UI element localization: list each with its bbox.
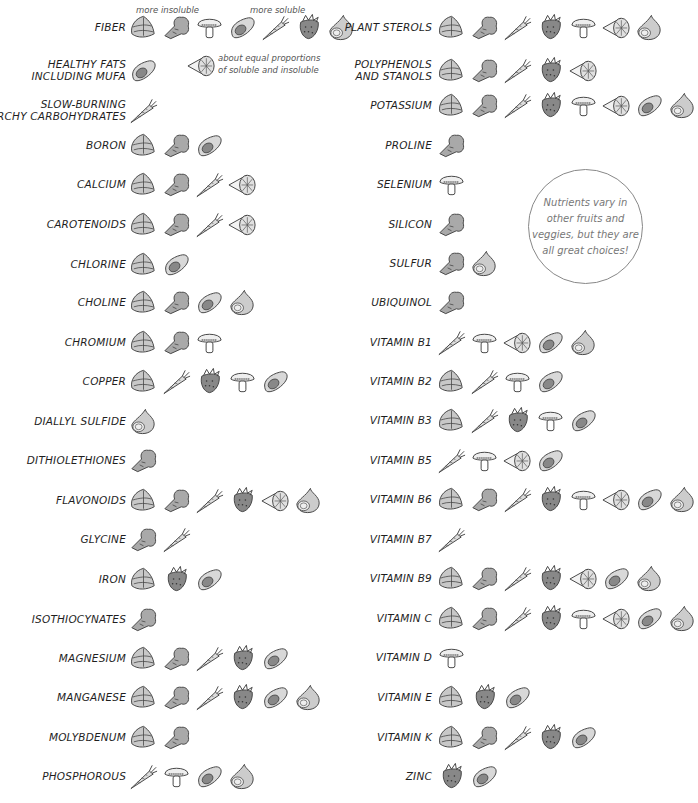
- nutrient-label: VITAMIN B9: [370, 572, 432, 584]
- nutrient-label: GLYCINE: [80, 533, 126, 545]
- nutrient-food-icons: [436, 761, 500, 791]
- broccoli-icon: [161, 682, 192, 712]
- nutrient-label-line: SLOW-BURNING: [0, 98, 126, 110]
- note-bubble: Nutrients vary in other fruits and veggi…: [528, 169, 643, 284]
- mushroom-icon: [436, 169, 467, 199]
- nutrient-label-line: MOLYBDENUM: [49, 731, 126, 743]
- nutrient-label-line: DITHIOLETHIONES: [27, 454, 126, 466]
- nutrient-label-line: VITAMIN E: [377, 691, 432, 703]
- nutrient-label-line: PHOSPHOROUS: [42, 770, 126, 782]
- leafy-greens-icon: [128, 722, 159, 752]
- nutrient-label-line: CHOLINE: [78, 296, 126, 308]
- broccoli-icon: [161, 130, 192, 160]
- nutrient-label-line: VITAMIN B2: [370, 375, 432, 387]
- nutrient-label: PROLINE: [385, 139, 432, 151]
- leafy-greens-icon: [128, 287, 159, 317]
- onion-icon: [634, 563, 665, 593]
- nutrient-food-icons: [128, 12, 357, 42]
- broccoli-icon: [469, 55, 500, 85]
- mushroom-icon: [194, 12, 225, 42]
- citrus-icon: [601, 603, 632, 633]
- nutrient-label-line: UBIQUINOL: [371, 296, 432, 308]
- mushroom-icon: [568, 90, 599, 120]
- broccoli-icon: [469, 603, 500, 633]
- mushroom-icon: [469, 445, 500, 475]
- nutrient-label-line: VITAMIN B6: [370, 493, 432, 505]
- nutrient-label-line: PROLINE: [385, 139, 432, 151]
- avocado-icon: [535, 366, 566, 396]
- broccoli-icon: [436, 248, 467, 278]
- nutrient-label: VITAMIN B7: [370, 533, 432, 545]
- avocado-icon: [634, 484, 665, 514]
- nutrient-label-line: ISOTHIOCYNATES: [32, 613, 126, 625]
- nutrient-label: SILICON: [388, 218, 432, 230]
- nutrient-food-icons: [436, 603, 698, 633]
- mushroom-icon: [535, 405, 566, 435]
- leafy-greens-icon: [436, 90, 467, 120]
- broccoli-icon: [161, 327, 192, 357]
- nutrient-label: MOLYBDENUM: [49, 731, 126, 743]
- avocado-icon: [568, 405, 599, 435]
- nutrient-food-icons: [128, 524, 192, 554]
- nutrient-label-line: POLYPHENOLS: [354, 58, 432, 70]
- strawberry-icon: [227, 643, 258, 673]
- nutrient-food-icons: [128, 761, 258, 791]
- onion-icon: [293, 485, 324, 515]
- nutrient-label: CALCIUM: [77, 178, 126, 190]
- nutrient-label-line: SELENIUM: [377, 178, 432, 190]
- strawberry-icon: [227, 682, 258, 712]
- leafy-greens-icon: [436, 682, 467, 712]
- strawberry-icon: [469, 682, 500, 712]
- strawberry-icon: [293, 12, 324, 42]
- nutrient-label-line: ZINC: [406, 770, 432, 782]
- strawberry-icon: [535, 12, 566, 42]
- broccoli-icon: [128, 604, 159, 634]
- avocado-icon: [194, 130, 225, 160]
- broccoli-icon: [128, 524, 159, 554]
- nutrient-food-icons: [128, 55, 159, 85]
- nutrient-label-line: CHLORINE: [71, 258, 127, 270]
- nutrient-food-icons: [436, 563, 665, 593]
- avocado-icon: [260, 366, 291, 396]
- onion-icon: [227, 761, 258, 791]
- nutrient-food-icons: [128, 722, 192, 752]
- leafy-greens-icon: [128, 564, 159, 594]
- citrus-icon: [568, 55, 599, 85]
- strawberry-icon: [194, 366, 225, 396]
- nutrient-label: ZINC: [406, 770, 432, 782]
- broccoli-icon: [436, 209, 467, 239]
- nutrient-food-icons: [128, 209, 258, 239]
- mushroom-icon: [568, 603, 599, 633]
- leafy-greens-icon: [436, 722, 467, 752]
- strawberry-icon: [535, 603, 566, 633]
- nutrient-food-icons: [436, 524, 467, 554]
- broccoli-icon: [436, 287, 467, 317]
- avocado-icon: [568, 722, 599, 752]
- broccoli-icon: [161, 287, 192, 317]
- nutrient-label: HEALTHY FATSINCLUDING MUFA: [32, 58, 126, 82]
- broccoli-icon: [469, 12, 500, 42]
- strawberry-icon: [535, 722, 566, 752]
- avocado-icon: [535, 445, 566, 475]
- strawberry-icon: [535, 484, 566, 514]
- carrot-icon: [128, 95, 159, 125]
- onion-icon: [293, 682, 324, 712]
- nutrient-label-line: POTASSIUM: [370, 99, 432, 111]
- nutrient-food-icons: [436, 682, 533, 712]
- onion-icon: [568, 327, 599, 357]
- nutrient-label: MAGNESIUM: [59, 652, 126, 664]
- broccoli-icon: [161, 209, 192, 239]
- mushroom-icon: [436, 642, 467, 672]
- nutrient-label-line: BORON: [86, 139, 126, 151]
- nutrient-label: CHLORINE: [71, 258, 127, 270]
- nutrient-food-icons: [436, 12, 665, 42]
- carrot-icon: [436, 524, 467, 554]
- nutrient-label: SLOW-BURNINGSTARCHY CARBOHYDRATES: [0, 98, 126, 122]
- avocado-icon: [227, 12, 258, 42]
- leafy-greens-icon: [436, 484, 467, 514]
- nutrient-food-icons: [436, 90, 698, 120]
- nutrient-food-icons: [436, 722, 599, 752]
- carrot-icon: [502, 55, 533, 85]
- mushroom-icon: [568, 484, 599, 514]
- onion-icon: [667, 603, 698, 633]
